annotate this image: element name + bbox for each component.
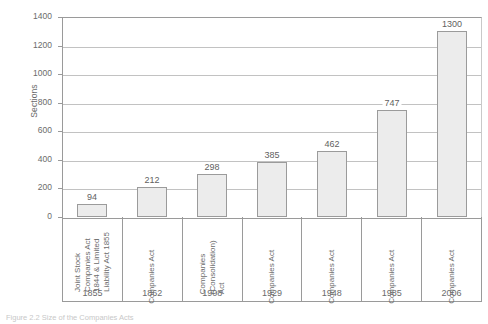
y-tick-label-600: 600 <box>12 125 52 135</box>
x-axis-year-label: 1929 <box>243 288 302 298</box>
bar-group: 385 <box>242 17 302 217</box>
x-axis-cell: Companies Act2006 <box>421 217 482 301</box>
bar-value-label: 212 <box>142 175 161 185</box>
x-axis-cell: Companies(Consolidation)Act1908 <box>182 217 242 301</box>
bar[interactable] <box>137 187 167 217</box>
x-axis-cell: Companies Act1929 <box>242 217 302 301</box>
bar-group: 298 <box>182 17 242 217</box>
x-axis-act-label-line: Liability Act 1855 <box>102 232 112 292</box>
y-tick-label-200: 200 <box>12 182 52 192</box>
bar-group: 747 <box>362 17 422 217</box>
bars-layer: 942122983854627471300 <box>62 17 482 217</box>
bar[interactable] <box>77 204 107 217</box>
y-tick-label-1400: 1400 <box>12 11 52 21</box>
x-axis-act-label-line: 1844 & Limited <box>92 232 102 292</box>
bar-value-label: 385 <box>262 150 281 160</box>
x-axis-act-label-line: (Consolidation) <box>207 240 217 294</box>
bar-chart-figure: Sections 0200400600800100012001400 94212… <box>0 0 488 324</box>
bar-group: 94 <box>62 17 122 217</box>
x-axis-cell: Companies Act1862 <box>122 217 182 301</box>
bar-group: 1300 <box>422 17 482 217</box>
x-axis-cell: Joint StockCompanies Act1844 & LimitedLi… <box>62 217 122 301</box>
bar-group: 212 <box>122 17 182 217</box>
bar[interactable] <box>257 162 287 217</box>
bar-value-label: 462 <box>322 139 341 149</box>
figure-caption: Figure 2.2 Size of the Companies Acts <box>6 313 134 324</box>
x-axis-year-label: 2006 <box>422 288 481 298</box>
y-tick-label-1000: 1000 <box>12 68 52 78</box>
x-axis-label-table: Joint StockCompanies Act1844 & LimitedLi… <box>62 217 482 302</box>
y-tick-label-0: 0 <box>12 211 52 221</box>
x-axis-act-label: Companies Act <box>302 219 361 281</box>
bar-value-label: 1300 <box>440 19 464 29</box>
x-axis-act-label: Joint StockCompanies Act1844 & LimitedLi… <box>63 219 122 281</box>
bar-value-label: 747 <box>382 98 401 108</box>
x-axis-act-label-text: Companies(Consolidation)Act <box>198 240 227 294</box>
bar-value-label: 94 <box>85 192 99 202</box>
x-axis-year-label: 1985 <box>362 288 421 298</box>
x-axis-act-label: Companies Act <box>123 219 182 281</box>
x-axis-act-label-text: Joint StockCompanies Act1844 & LimitedLi… <box>73 232 111 292</box>
x-axis-act-label: Companies Act <box>243 219 302 281</box>
x-axis-cell: Companies Act1948 <box>301 217 361 301</box>
x-axis-act-label: Companies Act <box>422 219 481 281</box>
bar[interactable] <box>437 31 467 217</box>
x-axis-cell: Companies Act1985 <box>361 217 421 301</box>
bar-group: 462 <box>302 17 362 217</box>
bar[interactable] <box>317 151 347 217</box>
x-axis-act-label-line: Act <box>217 240 227 294</box>
x-axis-year-label: 1862 <box>123 288 182 298</box>
y-tick-label-400: 400 <box>12 154 52 164</box>
x-axis-act-label: Companies(Consolidation)Act <box>183 219 242 281</box>
x-axis-year-label: 1855 <box>63 288 122 298</box>
x-axis-act-label-line: Companies Act <box>83 232 93 292</box>
x-axis-act-label-line: Companies <box>198 240 208 294</box>
y-tick-label-1200: 1200 <box>12 40 52 50</box>
bar[interactable] <box>197 174 227 217</box>
x-axis-year-label: 1948 <box>302 288 361 298</box>
x-axis-year-label: 1908 <box>183 288 242 298</box>
bar[interactable] <box>377 110 407 217</box>
x-axis-act-label: Companies Act <box>362 219 421 281</box>
y-tick-label-800: 800 <box>12 97 52 107</box>
bar-value-label: 298 <box>202 162 221 172</box>
x-axis-act-label-line: Joint Stock <box>73 232 83 292</box>
